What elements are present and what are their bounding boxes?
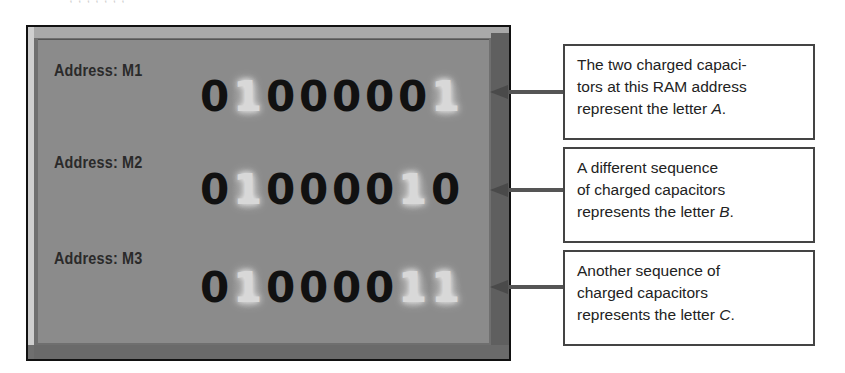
- arrowhead-icon: [490, 85, 508, 99]
- callout-line: represents the letter B.: [577, 201, 803, 223]
- callout-line: A different sequence: [577, 157, 803, 179]
- callout-arrow-line-m3: [505, 285, 563, 289]
- bit-0: 0: [198, 168, 231, 212]
- bit-0: 0: [198, 75, 231, 119]
- clipped-caption-fragment: · , , , , , , ,: [60, 0, 460, 3]
- bit-0: 0: [330, 266, 363, 310]
- bit-0: 0: [198, 266, 231, 310]
- bit-0: 0: [297, 266, 330, 310]
- bit-0: 0: [264, 266, 297, 310]
- arrowhead-icon: [490, 280, 508, 294]
- bit-sequence: 0 1 0 0 0 0 1 0: [198, 168, 462, 212]
- letter-emphasis: B: [719, 203, 729, 220]
- letter-emphasis: A: [711, 100, 721, 117]
- bit-sequence: 0 1 0 0 0 0 1 1: [198, 266, 462, 310]
- callout-suffix: .: [730, 306, 734, 323]
- bit-0: 0: [330, 168, 363, 212]
- bit-0: 0: [297, 75, 330, 119]
- memory-row-m3: Address: M3 0 1 0 0 0 0 1 1: [38, 248, 489, 338]
- bit-1-charged: 1: [396, 266, 429, 310]
- arrowhead-icon: [490, 183, 508, 197]
- memory-row-m1: Address: M1 0 1 0 0 0 0 0 1: [38, 58, 489, 148]
- callout-line-text: represent the letter: [577, 100, 711, 117]
- callout-suffix: .: [722, 100, 726, 117]
- callout-line-text: represents the letter: [577, 306, 719, 323]
- panel-inner: Address: M1 0 1 0 0 0 0 0 1 Address: M2 …: [38, 39, 489, 343]
- callout-line: of charged capacitors: [577, 179, 803, 201]
- address-label: Address: M3: [54, 250, 142, 268]
- callout-letter-a: The two charged capaci- tors at this RAM…: [563, 44, 815, 140]
- bit-0: 0: [297, 168, 330, 212]
- callout-line: tors at this RAM address: [577, 76, 803, 98]
- bit-sequence: 0 1 0 0 0 0 0 1: [198, 75, 462, 119]
- callout-arrow-line-m1: [505, 90, 563, 94]
- bit-1-charged: 1: [231, 266, 264, 310]
- bit-0: 0: [363, 266, 396, 310]
- callout-line-text: represents the letter: [577, 203, 719, 220]
- panel-bevel-left: [28, 27, 34, 345]
- callout-letter-c: Another sequence of charged capacitors r…: [563, 250, 815, 346]
- bit-1-charged: 1: [231, 75, 264, 119]
- address-label: Address: M1: [54, 62, 142, 80]
- panel-bevel-top: [28, 27, 509, 38]
- callout-suffix: .: [730, 203, 734, 220]
- callout-arrow-line-m2: [505, 188, 563, 192]
- memory-row-m2: Address: M2 0 1 0 0 0 0 1 0: [38, 152, 489, 242]
- address-label: Address: M2: [54, 154, 142, 172]
- callout-line: The two charged capaci-: [577, 54, 803, 76]
- bit-0: 0: [330, 75, 363, 119]
- bit-0: 0: [363, 168, 396, 212]
- bit-0: 0: [264, 168, 297, 212]
- bit-0: 0: [429, 168, 462, 212]
- callout-line: represents the letter C.: [577, 304, 803, 326]
- bit-1-charged: 1: [429, 266, 462, 310]
- callout-line: represent the letter A.: [577, 98, 803, 120]
- panel-bevel-bottom: [34, 345, 509, 359]
- letter-emphasis: C: [719, 306, 730, 323]
- bit-0: 0: [396, 75, 429, 119]
- callout-letter-b: A different sequence of charged capacito…: [563, 147, 815, 243]
- callout-line: Another sequence of: [577, 260, 803, 282]
- bit-0: 0: [264, 75, 297, 119]
- bit-1-charged: 1: [429, 75, 462, 119]
- bit-1-charged: 1: [231, 168, 264, 212]
- ram-memory-panel: Address: M1 0 1 0 0 0 0 0 1 Address: M2 …: [26, 25, 511, 361]
- bit-1-charged: 1: [396, 168, 429, 212]
- bit-0: 0: [363, 75, 396, 119]
- callout-line: charged capacitors: [577, 282, 803, 304]
